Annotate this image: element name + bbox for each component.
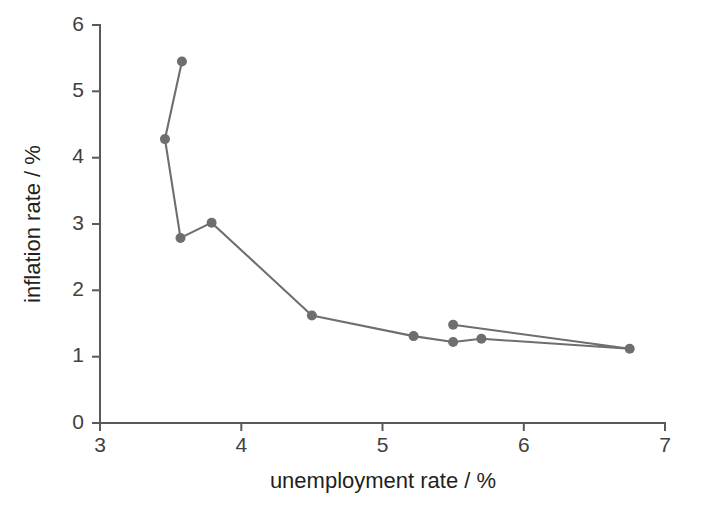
data-point — [409, 331, 419, 341]
x-tick-label-4: 4 — [235, 433, 247, 456]
data-point — [307, 311, 317, 321]
y-tick-label-4: 4 — [72, 144, 84, 167]
data-point — [625, 344, 635, 354]
data-point — [448, 337, 458, 347]
y-tick-label-3: 3 — [72, 211, 84, 234]
x-tick-label-6: 6 — [518, 433, 530, 456]
scatter-line-plot: 0 1 2 3 4 5 6 3 4 5 6 7 unemployment rat… — [0, 0, 713, 515]
x-tick-label-3: 3 — [94, 433, 106, 456]
series-line-0 — [165, 61, 630, 348]
x-tick-label-5: 5 — [377, 433, 389, 456]
data-point — [207, 218, 217, 228]
y-tick-label-2: 2 — [72, 277, 84, 300]
data-series-group — [160, 56, 635, 353]
y-tick-label-1: 1 — [72, 343, 84, 366]
data-point — [448, 320, 458, 330]
y-axis-ticks — [92, 25, 100, 423]
chart-figure: 0 1 2 3 4 5 6 3 4 5 6 7 unemployment rat… — [0, 0, 713, 515]
x-tick-label-7: 7 — [659, 433, 671, 456]
y-tick-label-6: 6 — [72, 12, 84, 35]
y-axis-title: inflation rate / % — [20, 145, 45, 303]
data-point — [160, 134, 170, 144]
x-axis-title: unemployment rate / % — [270, 468, 496, 493]
data-point — [176, 233, 186, 243]
data-point — [177, 56, 187, 66]
y-tick-label-5: 5 — [72, 78, 84, 101]
y-tick-label-0: 0 — [72, 410, 84, 433]
data-point — [476, 334, 486, 344]
x-axis-ticks — [100, 423, 665, 431]
